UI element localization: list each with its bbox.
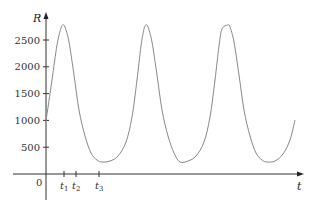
x-axis-label: t <box>297 180 302 193</box>
y-axis-label: R <box>32 12 41 25</box>
y-tick-label: 1500 <box>15 88 40 99</box>
y-tick-label: 500 <box>21 142 40 153</box>
x-axis-arrow-icon <box>297 172 304 177</box>
x-tick-label: t2 <box>72 180 81 193</box>
x-tick-label: t1 <box>60 180 69 193</box>
data-curve <box>46 25 295 163</box>
y-axis-arrow-icon <box>44 12 49 19</box>
x-tick-label: t3 <box>95 180 104 193</box>
y-tick-label: 2500 <box>15 35 40 46</box>
origin-label: 0 <box>36 177 42 188</box>
population-chart: R t 0 5001000150020002500 t1t2t3 <box>0 0 321 204</box>
y-tick-label: 1000 <box>15 115 40 126</box>
y-ticks: 5001000150020002500 <box>15 35 49 153</box>
y-tick-label: 2000 <box>15 61 40 72</box>
